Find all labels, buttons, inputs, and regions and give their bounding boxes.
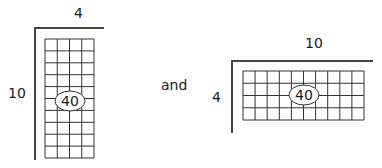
- tall-top-label: 4: [74, 6, 83, 20]
- diagram-canvas: 4040: [0, 0, 382, 168]
- tall-figure: 40: [35, 28, 104, 160]
- wide-top-label: 10: [305, 36, 323, 50]
- and-connector-text: and: [161, 78, 187, 92]
- wide-figure: 40: [232, 61, 373, 133]
- wide-side-label: 4: [212, 90, 221, 104]
- tall-area-label: 40: [61, 93, 79, 109]
- wide-area-label: 40: [295, 87, 313, 103]
- tall-side-label: 10: [8, 86, 26, 100]
